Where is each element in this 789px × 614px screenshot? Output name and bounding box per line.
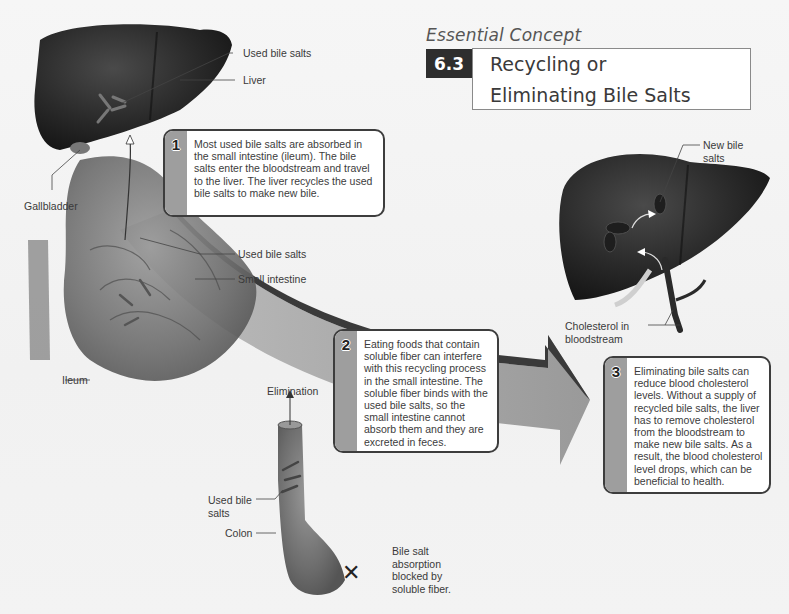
label-new-bile-salts: New bile salts [703, 139, 743, 164]
large-intestine-left [28, 240, 50, 360]
callout-text-2: Eating foods that contain soluble fiber … [364, 338, 491, 448]
label-cholesterol-in-bloodstream: Cholesterol in bloodstream [565, 320, 629, 345]
label-used-bile-salts-liver: Used bile salts [243, 47, 311, 60]
label-ileum: Ileum [62, 374, 88, 387]
blocked-x-icon: ✕ [342, 560, 360, 585]
callout-step-3: 3 Eliminating bile salts can reduce bloo… [603, 356, 771, 494]
label-used-bile-salts-intestine: Used bile salts [238, 248, 306, 261]
label-colon: Colon [225, 527, 252, 540]
label-small-intestine: Small intestine [238, 273, 306, 286]
callout-text-3: Eliminating bile salts can reduce blood … [634, 365, 763, 487]
step-number-2: 2 [338, 337, 354, 353]
concept-number-badge: 6.3 [426, 49, 472, 78]
label-absorption-blocked: Bile salt absorption blocked by soluble … [392, 545, 451, 595]
title-line-1: Recycling or [490, 49, 750, 80]
step-number-3: 3 [608, 364, 624, 380]
label-liver: Liver [243, 74, 266, 87]
page-title: Recycling or Eliminating Bile Salts [490, 49, 750, 111]
label-elimination: Elimination [267, 385, 318, 398]
callout-step-1: 1 Most used bile salts are absorbed in t… [163, 129, 385, 217]
liver-right [559, 154, 770, 330]
label-used-bile-salts-colon: Used bile salts [208, 494, 252, 519]
callout-step-2: 2 Eating foods that contain soluble fibe… [333, 329, 499, 453]
callout-text-1: Most used bile salts are absorbed in the… [194, 138, 377, 199]
eyebrow-label: Essential Concept [426, 25, 581, 45]
step-number-1: 1 [168, 137, 184, 153]
label-gallbladder: Gallbladder [24, 200, 78, 213]
title-line-2: Eliminating Bile Salts [490, 80, 750, 111]
